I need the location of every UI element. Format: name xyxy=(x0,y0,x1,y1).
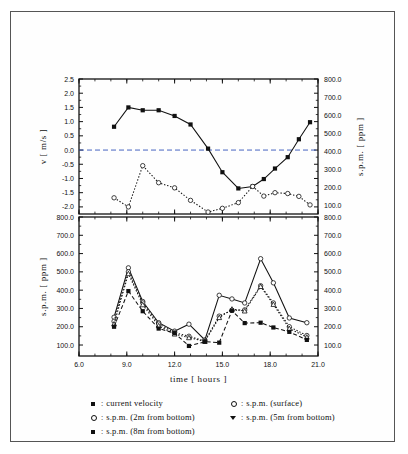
top-panel-ytick-label: -1.0 xyxy=(62,175,74,182)
bottom-panel-series-marker xyxy=(271,325,275,329)
bottom-panel-series-marker xyxy=(217,341,221,345)
top-panel-series-marker xyxy=(173,114,177,118)
top-panel-series-marker xyxy=(156,181,160,185)
top-panel-ytick-label: -2.0 xyxy=(62,203,74,210)
top-panel-ytick-label: 2.0 xyxy=(64,90,74,97)
top-panel-series-marker xyxy=(250,184,254,188)
bottom-panel-y2tick-label: 200.0 xyxy=(324,323,342,330)
top-panel-series-line xyxy=(114,166,310,212)
top-panel-series-marker xyxy=(297,194,301,198)
bottom-panel-series-marker xyxy=(203,340,207,344)
top-panel-ytick-label: 0.0 xyxy=(64,147,74,154)
bottom-panel-series-line xyxy=(114,274,307,342)
bottom-panel-xtick-label: 18.0 xyxy=(263,361,277,368)
top-panel-y2tick-label: 500.0 xyxy=(324,130,342,137)
chart-legend: : current velocity : s.p.m. (2m from bot… xyxy=(33,396,381,440)
bottom-panel-series-marker xyxy=(157,326,161,330)
legend-label: s.p.m. (surface) xyxy=(246,398,302,408)
bottom-panel-xtick-label: 12.0 xyxy=(168,361,182,368)
figure-frame: 2.52.01.51.00.50.0-0.5-1.0-1.5-2.0800.07… xyxy=(10,11,395,442)
bottom-panel-ytick-label: 700.0 xyxy=(56,232,74,239)
top-panel-series-marker xyxy=(112,196,116,200)
open-circle-icon xyxy=(229,399,238,408)
top-panel-series-marker xyxy=(206,147,210,151)
top-panel-ytick-label: 1.5 xyxy=(64,104,74,111)
top-panel-series-marker xyxy=(262,177,266,181)
legend-item: : current velocity xyxy=(89,396,195,410)
bottom-panel-series-marker xyxy=(305,338,309,342)
bottom-panel-y2tick-label: 800.0 xyxy=(324,214,342,221)
top-panel-series-marker xyxy=(206,210,210,214)
chart-canvas: 2.52.01.51.00.50.0-0.5-1.0-1.5-2.0800.07… xyxy=(11,12,394,441)
bottom-panel-series-marker xyxy=(112,325,116,329)
legend-item: : s.p.m. (surface) xyxy=(229,396,335,410)
bottom-panel-xtick-label: 21.0 xyxy=(311,361,325,368)
bottom-panel-ytick-label: 400.0 xyxy=(56,287,74,294)
top-panel-plot-frame xyxy=(79,79,318,214)
top-panel-series-marker xyxy=(273,190,277,194)
bottom-panel-xtick-label: 6.0 xyxy=(74,361,84,368)
legend-label: s.p.m. (5m from bottom) xyxy=(246,412,335,422)
top-panel-series-marker xyxy=(220,170,224,174)
bottom-panel-series-marker xyxy=(271,281,275,285)
top-panel-y2tick-label: 200.0 xyxy=(324,184,342,191)
open-circle-icon xyxy=(89,413,98,422)
top-panel-series-marker xyxy=(262,194,266,198)
bottom-panel-series-marker xyxy=(258,257,262,261)
bottom-panel-ytick-label: 800.0 xyxy=(56,214,74,221)
top-panel-series-marker xyxy=(236,186,240,190)
top-panel-series-marker xyxy=(172,186,176,190)
top-panel-series-marker xyxy=(286,191,290,195)
top-panel-series-line xyxy=(114,107,310,188)
bottom-panel-y2tick-label: 300.0 xyxy=(324,305,342,312)
legend-separator: : xyxy=(241,413,243,422)
bottom-panel-ytick-label: 100.0 xyxy=(56,342,74,349)
top-panel-y-axis-title: v [ m/s ] xyxy=(38,129,48,165)
top-panel-series-marker xyxy=(112,125,116,129)
bottom-panel-ytick-label: 200.0 xyxy=(56,323,74,330)
bottom-panel-series-marker xyxy=(230,309,234,313)
bottom-panel-y2tick-label: 600.0 xyxy=(324,250,342,257)
top-panel-y2tick-label: 600.0 xyxy=(324,112,342,119)
bottom-panel-x-axis-title: time [ hours ] xyxy=(170,374,227,384)
top-panel-ytick-label: 1.0 xyxy=(64,118,74,125)
bottom-panel-series-marker xyxy=(187,322,191,326)
legend-label: current velocity xyxy=(106,398,163,408)
bottom-panel-y-axis-title: s.p.m. [ ppm ] xyxy=(38,257,48,316)
bottom-panel-xtick-label: 15.0 xyxy=(216,361,230,368)
bottom-panel-series-marker xyxy=(126,289,130,293)
top-panel-y2tick-label: 800.0 xyxy=(324,76,342,83)
filled-square-icon xyxy=(89,427,98,436)
top-panel-series-marker xyxy=(308,120,312,124)
bottom-panel-y2tick-label: 400.0 xyxy=(324,287,342,294)
legend-separator: : xyxy=(241,399,243,408)
filled-square-icon xyxy=(89,399,98,408)
legend-item: : s.p.m. (8m from bottom) xyxy=(89,424,195,438)
top-panel-ytick-label: 2.5 xyxy=(64,76,74,83)
legend-separator: : xyxy=(101,413,103,422)
bottom-panel-series-marker xyxy=(243,301,247,305)
top-panel-ytick-label: -0.5 xyxy=(62,161,74,168)
legend-separator: : xyxy=(101,399,103,408)
bottom-panel-y2tick-label: 500.0 xyxy=(324,268,342,275)
top-panel-y2tick-label: 400.0 xyxy=(324,148,342,155)
bottom-panel-series-marker xyxy=(305,321,309,325)
bottom-panel-xtick-label: 9.0 xyxy=(122,361,132,368)
bottom-panel-series-marker xyxy=(141,309,145,313)
top-panel-series-marker xyxy=(308,203,312,207)
bottom-panel-series-marker xyxy=(243,321,247,325)
bottom-panel-series-marker xyxy=(259,321,263,325)
legend-column-left: : current velocity : s.p.m. (2m from bot… xyxy=(89,396,195,438)
top-panel-series-marker xyxy=(157,108,161,112)
top-panel-series-marker xyxy=(188,198,192,202)
bottom-panel-series-marker xyxy=(217,293,221,297)
top-panel-y2tick-label: 700.0 xyxy=(324,94,342,101)
bottom-panel-ytick-label: 500.0 xyxy=(56,268,74,275)
top-panel-y2tick-label: 300.0 xyxy=(324,166,342,173)
top-panel-series-marker xyxy=(273,166,277,170)
bottom-panel-y2tick-label: 700.0 xyxy=(324,232,342,239)
top-panel-series-marker xyxy=(141,163,145,167)
legend-label: s.p.m. (8m from bottom) xyxy=(106,426,195,436)
legend-item: : s.p.m. (5m from bottom) xyxy=(229,410,335,424)
top-panel-series-marker xyxy=(220,206,224,210)
